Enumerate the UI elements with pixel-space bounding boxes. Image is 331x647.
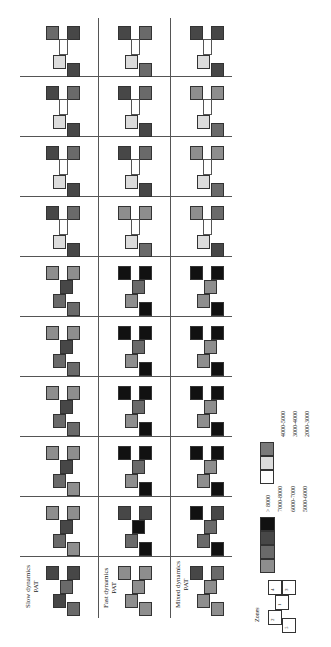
- row-divider: [20, 136, 232, 137]
- zone-3-square: [67, 506, 80, 520]
- zone-5-square: [139, 482, 152, 496]
- zone-2-square: [53, 534, 66, 548]
- zone-4-square: [46, 326, 59, 340]
- legend-label: 3000-4000: [292, 411, 298, 437]
- zone-4-square: [46, 266, 59, 280]
- zone-4-square: [190, 86, 203, 100]
- zone-1-square: [204, 520, 217, 534]
- legend-swatch: [260, 456, 274, 470]
- zone-4-square: [46, 146, 59, 160]
- zone-2-square: [125, 175, 138, 189]
- zone-1-square: [132, 460, 145, 474]
- zone-3-square: [139, 146, 152, 160]
- zone-3-square: [67, 566, 80, 580]
- zone-5-square: [139, 123, 152, 137]
- zone-2-square: [125, 414, 138, 428]
- zone-1-outline: [59, 99, 68, 115]
- zone-2-square: [53, 55, 66, 69]
- zone-1-square: [60, 400, 73, 414]
- zone-3-square: [67, 266, 80, 280]
- row-divider: [20, 376, 232, 377]
- legend-swatch: [260, 531, 275, 545]
- zone-3-square: [139, 86, 152, 100]
- zone-1-square: [60, 280, 73, 294]
- zone-number-label: 1: [277, 604, 282, 607]
- zone-4-square: [118, 326, 131, 340]
- zone-3-square: [211, 566, 224, 580]
- scenario-label: Mixed dynamicsPAT: [174, 561, 190, 608]
- zone-5-square: [211, 482, 224, 496]
- zone-5-square: [211, 542, 224, 556]
- zone-5-square: [211, 123, 224, 137]
- zone-1-square: [132, 280, 145, 294]
- zone-3-square: [67, 26, 80, 40]
- zones-legend-title: Zones: [254, 607, 260, 622]
- legend-swatch: [260, 545, 275, 559]
- zone-2-square: [197, 55, 210, 69]
- zone-4-square: [46, 566, 59, 580]
- zone-4-square: [190, 206, 203, 220]
- zone-5-square: [67, 302, 80, 316]
- scenario-label: Slow dynamicsPAT: [24, 565, 40, 608]
- zone-1-square: [204, 580, 217, 594]
- zone-1-outline: [203, 39, 212, 55]
- zone-1-square: [60, 460, 73, 474]
- legend-swatch: [260, 559, 275, 573]
- zone-3-square: [139, 26, 152, 40]
- zone-4-square: [190, 266, 203, 280]
- zone-2-square: [53, 115, 66, 129]
- zone-5-square: [211, 63, 224, 77]
- zone-5-square: [139, 63, 152, 77]
- zone-1-square: [132, 580, 145, 594]
- zone-1-square: [60, 580, 73, 594]
- zone-5-square: [67, 183, 80, 197]
- zone-number-label: 2: [270, 619, 275, 622]
- zone-5-square: [139, 362, 152, 376]
- zone-4-square: [118, 86, 131, 100]
- zone-5-square: [67, 123, 80, 137]
- zone-5-square: [211, 362, 224, 376]
- zone-1-outline: [59, 219, 68, 235]
- row-divider: [20, 496, 232, 497]
- zone-5-square: [67, 243, 80, 257]
- zone-3-square: [211, 26, 224, 40]
- zone-3-square: [139, 386, 152, 400]
- zone-4-square: [118, 206, 131, 220]
- row-divider: [20, 256, 232, 257]
- zone-1-outline: [59, 39, 68, 55]
- zone-3-square: [211, 326, 224, 340]
- zone-1-outline: [131, 219, 140, 235]
- scenario-model: PAT: [110, 568, 118, 608]
- column-divider: [98, 18, 99, 618]
- zone-4-square: [46, 386, 59, 400]
- zone-5-square: [139, 422, 152, 436]
- zone-3-square: [139, 566, 152, 580]
- zone-2-square: [197, 175, 210, 189]
- zone-2-square: [53, 594, 66, 608]
- zone-5-square: [139, 602, 152, 616]
- zone-4-square: [190, 146, 203, 160]
- zone-3-square: [67, 86, 80, 100]
- zone-3-square: [139, 506, 152, 520]
- zone-2-square: [197, 294, 210, 308]
- zone-4-square: [190, 386, 203, 400]
- zone-5-square: [67, 63, 80, 77]
- zone-2-square: [125, 294, 138, 308]
- zone-number-label: 3: [284, 589, 289, 592]
- zone-1-square: [204, 280, 217, 294]
- zone-number-label: 5: [284, 627, 289, 630]
- zone-1-square: [60, 340, 73, 354]
- zone-1-square: [60, 520, 73, 534]
- zone-2-square: [125, 354, 138, 368]
- zone-4-square: [46, 506, 59, 520]
- zone-2-square: [197, 594, 210, 608]
- legend-label: 7000-8000: [277, 486, 283, 512]
- zone-4-square: [118, 26, 131, 40]
- zone-3-square: [139, 206, 152, 220]
- zone-5-square: [211, 243, 224, 257]
- zone-2-square: [197, 534, 210, 548]
- zone-1-outline: [59, 159, 68, 175]
- scenario-name: Slow dynamics: [24, 565, 32, 608]
- figure: Slow dynamicsPATFast dynamicsPATMixed dy…: [0, 0, 331, 647]
- scenario-name: Fast dynamics: [102, 568, 110, 608]
